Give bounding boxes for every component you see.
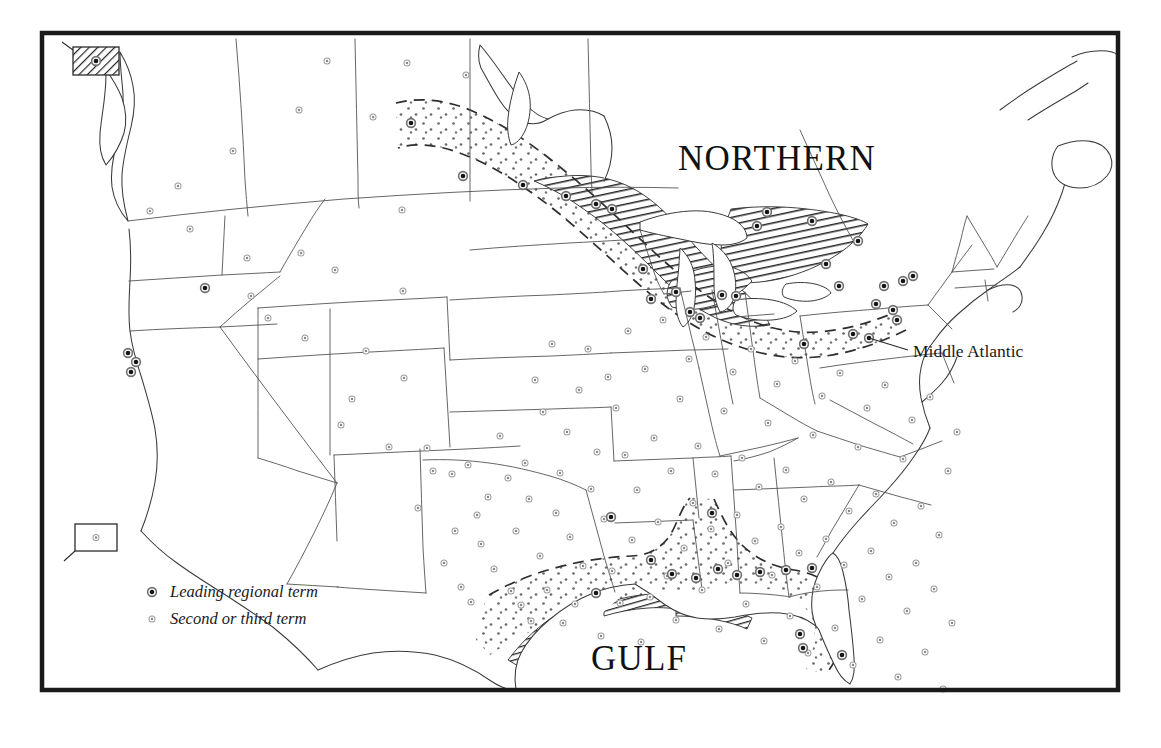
- hawaii-second-term-dot: [93, 534, 100, 541]
- callout-label-middle-atlantic: Middle Atlantic: [913, 341, 1024, 361]
- region-label-gulf: GULF: [591, 639, 687, 678]
- dialect-map-figure: NORTHERN GULF Middle Atlantic Leading re…: [0, 0, 1161, 748]
- map-canvas: NORTHERN GULF Middle Atlantic Leading re…: [0, 0, 1161, 748]
- legend-symbol-leading-term: [147, 587, 157, 597]
- legend-label-second-term: Second or third term: [170, 609, 306, 628]
- legend-symbol-second-term: [149, 616, 156, 623]
- legend-label-leading-term: Leading regional term: [169, 582, 318, 601]
- region-label-northern: NORTHERN: [678, 139, 876, 178]
- alaska-leading-term-dot: [91, 56, 101, 66]
